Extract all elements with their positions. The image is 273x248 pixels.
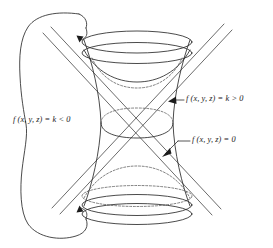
leader-to-one-sheeted-hyperboloid	[168, 97, 184, 105]
arrow-to-lower-sheet	[77, 206, 87, 220]
label-positive-level: f (x, y, z) = k > 0	[186, 95, 244, 103]
waist-ellipse	[101, 108, 173, 138]
top-rim-ellipses	[82, 31, 192, 88]
hyperboloid-level-surface-figure: f (x, y, z) = k < 0 f (x, y, z) = k > 0 …	[0, 0, 273, 248]
one-sheeted-hyperboloid-silhouette	[84, 40, 190, 206]
arrow-to-upper-sheet	[77, 28, 87, 43]
bottom-rim-ellipses	[82, 166, 192, 225]
label-negative-level: f (x, y, z) = k < 0	[13, 116, 71, 124]
label-zero-level: f (x, y, z) = 0	[192, 136, 236, 144]
two-sheeted-hyperboloid-outline	[20, 13, 87, 238]
